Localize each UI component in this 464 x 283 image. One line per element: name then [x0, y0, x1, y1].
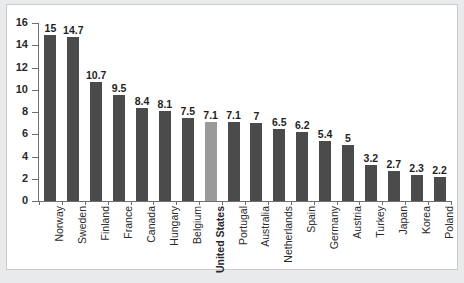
x-axis-tick [451, 201, 452, 205]
bar-rect[interactable] [67, 37, 79, 201]
x-axis-category-label: France [123, 206, 134, 239]
bar-value-label: 3.2 [364, 153, 379, 164]
x-axis-tick [359, 201, 360, 205]
bar-value-label: 2.7 [386, 159, 401, 170]
bar-rect[interactable] [434, 177, 446, 201]
bar-column[interactable]: 6.5 [273, 23, 285, 201]
bar-column[interactable]: 8.4 [136, 23, 148, 201]
x-axis-tick [108, 201, 109, 205]
bar-rect[interactable] [159, 111, 171, 201]
bar-column[interactable]: 8.1 [159, 23, 171, 201]
y-axis-tick-label: 16 [16, 16, 28, 28]
bar-column[interactable]: 14.7 [67, 23, 79, 201]
x-axis-category-label: Portugal [238, 206, 249, 245]
bar-rect[interactable] [342, 145, 354, 201]
bar-rect[interactable] [90, 82, 102, 201]
bar-value-label: 10.7 [86, 70, 106, 81]
bar-column[interactable]: 7.1 [205, 23, 217, 201]
bar-value-label: 8.4 [135, 96, 150, 107]
bar-value-label: 7.5 [180, 106, 195, 117]
x-axis-category-label: Turkey [375, 206, 386, 238]
bar-column[interactable]: 6.2 [296, 23, 308, 201]
bar-rect[interactable] [388, 171, 400, 201]
x-axis-category-label: Sweden [77, 206, 88, 244]
x-axis-category-label: Finland [100, 206, 111, 240]
bar-value-label: 9.5 [112, 83, 127, 94]
bar-rect[interactable] [228, 122, 240, 201]
x-axis-tick [428, 201, 429, 205]
bar-value-label: 2.2 [432, 165, 447, 176]
bar-rect[interactable] [365, 165, 377, 201]
bar-rect[interactable] [113, 95, 125, 201]
bar-column[interactable]: 7.1 [228, 23, 240, 201]
bar-value-label: 14.7 [63, 25, 83, 36]
y-axis-tick-label: 8 [22, 105, 28, 117]
x-axis-category-label: Spain [306, 206, 317, 233]
bar-column[interactable]: 7 [250, 23, 262, 201]
y-axis-tick: 6 [32, 134, 38, 135]
bar-rect[interactable] [44, 35, 56, 201]
plot-area: 1514.710.79.58.48.17.57.17.176.56.25.453… [39, 23, 451, 201]
bar-rect-highlighted[interactable] [205, 122, 217, 201]
x-axis-tick [153, 201, 154, 205]
bar-rect[interactable] [136, 108, 148, 201]
bar-column[interactable]: 15 [44, 23, 56, 201]
bar-value-label: 7.1 [226, 110, 241, 121]
y-axis-tick: 10 [32, 90, 38, 91]
x-axis-tick [245, 201, 246, 205]
x-axis-category-label: Japan [398, 206, 409, 235]
x-axis-tick [62, 201, 63, 205]
bar-value-label: 15 [45, 23, 57, 34]
x-axis-tick [382, 201, 383, 205]
bar-value-label: 8.1 [158, 99, 173, 110]
x-axis-tick [405, 201, 406, 205]
y-axis-tick: 8 [32, 112, 38, 113]
x-axis-tick [291, 201, 292, 205]
x-axis-category-label: Netherlands [283, 206, 294, 263]
x-axis-category-label: Korea [421, 206, 432, 234]
x-axis-tick [131, 201, 132, 205]
y-axis-tick-label: 10 [16, 83, 28, 95]
x-axis-category-label: Poland [444, 206, 455, 239]
bar-column[interactable]: 10.7 [90, 23, 102, 201]
x-axis-category-label: Canada [146, 206, 157, 243]
bar-rect[interactable] [296, 132, 308, 201]
bar-column[interactable]: 2.3 [411, 23, 423, 201]
x-axis-tick [85, 201, 86, 205]
x-axis-tick [314, 201, 315, 205]
bar-rect[interactable] [182, 118, 194, 201]
bar-rect[interactable] [250, 123, 262, 201]
y-axis-tick-label: 2 [22, 172, 28, 184]
bar-rect[interactable] [273, 129, 285, 201]
bar-rect[interactable] [411, 175, 423, 201]
bar-value-label: 7.1 [203, 110, 218, 121]
bar-column[interactable]: 3.2 [365, 23, 377, 201]
x-axis-tick [176, 201, 177, 205]
x-axis-category-label: Austria [352, 206, 363, 239]
bar-column[interactable]: 2.7 [388, 23, 400, 201]
x-axis-category-label: Belgium [192, 206, 203, 244]
bar-column[interactable]: 2.2 [434, 23, 446, 201]
x-axis-category-label: Norway [54, 206, 65, 242]
bar-rect[interactable] [319, 141, 331, 201]
y-axis-tick: 4 [32, 157, 38, 158]
x-axis-category-label: Hungary [169, 206, 180, 246]
x-axis-category-label: Germany [329, 206, 340, 249]
y-axis-tick-label: 6 [22, 127, 28, 139]
bar-value-label: 7 [254, 111, 260, 122]
bar-column[interactable]: 7.5 [182, 23, 194, 201]
y-axis-tick: 16 [32, 23, 38, 24]
bar-column[interactable]: 5 [342, 23, 354, 201]
y-axis-tick-label: 12 [16, 61, 28, 73]
y-axis-tick-label: 14 [16, 38, 28, 50]
x-axis-category-label: Australia [260, 206, 271, 247]
x-axis-tick [222, 201, 223, 205]
bar-value-label: 5.4 [318, 129, 333, 140]
y-axis-tick-label: 4 [22, 150, 28, 162]
y-axis-tick: 2 [32, 179, 38, 180]
bar-value-label: 5 [345, 133, 351, 144]
bar-value-label: 6.5 [272, 117, 287, 128]
bar-column[interactable]: 5.4 [319, 23, 331, 201]
bar-value-label: 6.2 [295, 120, 310, 131]
bar-column[interactable]: 9.5 [113, 23, 125, 201]
